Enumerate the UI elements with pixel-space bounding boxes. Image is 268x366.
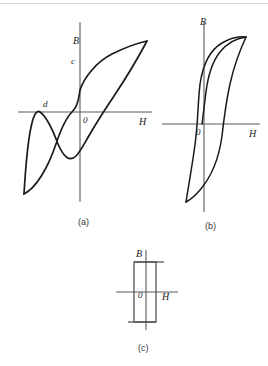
panel-b-caption: (b) xyxy=(205,222,216,231)
panel-a-h-axis-label: H xyxy=(139,117,146,127)
panel-c-h-axis-label: H xyxy=(162,292,169,302)
panel-b-plot xyxy=(160,16,264,216)
panel-b-inner-branch xyxy=(202,37,246,124)
panel-a-b-axis-label: B xyxy=(73,36,79,46)
figure-root: B H 0 c d (a) B H 0 (b) B H 0 (c) xyxy=(0,0,268,366)
panel-a-point-c-label: c xyxy=(71,57,75,66)
panel-b-h-axis-label: H xyxy=(249,129,256,139)
panel-b-b-axis-label: B xyxy=(200,17,206,27)
panel-c-caption: (c) xyxy=(138,344,149,353)
panel-c-plot xyxy=(112,248,182,332)
panel-c-b-axis-label: B xyxy=(136,249,142,259)
panel-c-origin-label: 0 xyxy=(138,291,143,300)
panel-b-right-branch xyxy=(186,37,246,202)
panel-b-origin-label: 0 xyxy=(196,128,201,137)
panel-a-origin-label: 0 xyxy=(83,116,88,125)
panel-a-point-d-label: d xyxy=(43,100,48,109)
panel-a-plot xyxy=(14,16,156,206)
top-divider xyxy=(0,3,268,4)
panel-a-caption: (a) xyxy=(78,218,89,227)
